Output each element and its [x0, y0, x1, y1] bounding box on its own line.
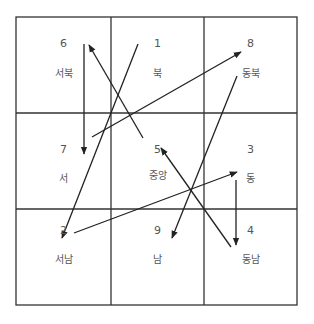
grid-cell-6: 6서북	[16, 17, 111, 113]
cell-direction-label: 서	[16, 170, 111, 185]
cell-direction-label: 서남	[16, 251, 111, 266]
cell-number: 4	[204, 224, 297, 237]
cell-number: 2	[16, 224, 111, 237]
cell-number: 5	[111, 143, 204, 156]
grid-cell-4: 4동남	[204, 209, 297, 305]
grid-cell-2: 2서남	[16, 209, 111, 305]
grid-cell-8: 8동북	[204, 17, 297, 113]
cell-direction-label: 서북	[16, 65, 111, 80]
cell-direction-label: 동북	[204, 65, 297, 80]
cell-direction-label: 동	[204, 170, 297, 185]
cell-direction-label: 남	[111, 251, 204, 266]
cell-direction-label: 동남	[204, 251, 297, 266]
cell-number: 1	[111, 37, 204, 50]
cell-direction-label: 북	[111, 65, 204, 80]
grid-cell-3: 3동	[204, 113, 297, 209]
cell-number: 6	[16, 37, 111, 50]
grid-cell-5: 5중앙	[111, 113, 204, 209]
cell-number: 7	[16, 143, 111, 156]
grid-cell-1: 1북	[111, 17, 204, 113]
cell-number: 8	[204, 37, 297, 50]
grid-cell-7: 7서	[16, 113, 111, 209]
grid-cell-9: 9남	[111, 209, 204, 305]
cell-number: 3	[204, 143, 297, 156]
cell-number: 9	[111, 224, 204, 237]
cell-direction-label: 중앙	[111, 167, 204, 182]
